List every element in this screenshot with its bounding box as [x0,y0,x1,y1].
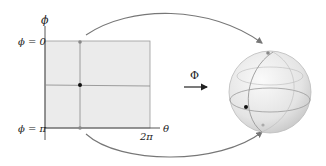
marked-point [78,83,82,87]
domain-rectangle [45,41,150,128]
north-pole-point [78,40,82,44]
two-pi-label: 2π [139,131,153,142]
domain-plane [45,26,160,140]
diagram-canvas: ϕ ϕ = 0 ϕ = π 2π θ Φ [0,0,326,166]
sphere-south-pole [261,123,264,126]
phi-pi-label: ϕ = π [18,123,47,134]
sphere-north-pole [266,51,270,55]
phi-axis-label: ϕ [41,14,49,27]
sphere [229,51,311,133]
theta-axis-label: θ [163,123,169,134]
bottom-curved-arrow [86,132,262,157]
south-pole-point [78,126,82,130]
top-curved-arrow [86,13,262,43]
map-arrow: Φ [184,69,207,87]
sphere-marked-point [244,105,248,109]
map-label: Φ [190,69,199,82]
phi-zero-label: ϕ = 0 [18,36,47,47]
